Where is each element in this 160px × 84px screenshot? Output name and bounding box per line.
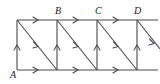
- vertex-label-a: A: [10, 70, 16, 80]
- vertex-label-b: B: [55, 6, 61, 16]
- diagonal-edge-4-clipped: [137, 20, 160, 49]
- vertex-label-d: D: [134, 6, 141, 16]
- diagonal-edges: [17, 20, 160, 70]
- vertex-label-c: C: [95, 6, 102, 16]
- diagram-canvas: A B C D: [0, 0, 160, 84]
